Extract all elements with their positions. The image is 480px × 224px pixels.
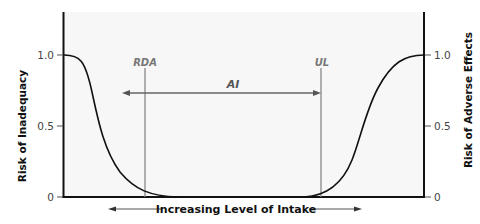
rda-label: RDA	[133, 57, 157, 68]
ul-label: UL	[315, 57, 330, 68]
right-tick-label-1: 1.0	[434, 49, 451, 61]
left-axis-title: Risk of Inadequacy	[16, 70, 28, 182]
left-tick-label-1: 1.0	[37, 49, 54, 61]
right-tick-label-0: 0	[434, 191, 441, 203]
left-tick-label-05: 0.5	[37, 120, 54, 132]
right-tick-label-05: 0.5	[434, 120, 451, 132]
ai-label: AI	[226, 78, 240, 91]
intake-arrow-left-head-icon	[108, 207, 116, 212]
x-axis-title: Increasing Level of Intake	[156, 203, 317, 216]
intake-risk-chart: 1.0 0.5 0 1.0 0.5 0 Risk of Inadequacy R…	[0, 0, 480, 224]
intake-arrow-right-head-icon	[354, 207, 362, 212]
left-tick-label-0: 0	[47, 191, 54, 203]
right-axis-title: Risk of Adverse Effects	[462, 32, 474, 168]
